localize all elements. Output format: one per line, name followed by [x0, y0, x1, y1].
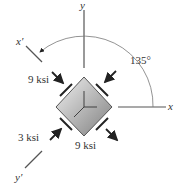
x-axis-label: x: [168, 101, 173, 112]
stress-label-bottom: 9 ksi: [75, 140, 96, 151]
x-prime-axis: [26, 46, 42, 62]
stress-element-diagram: [0, 0, 179, 189]
stress-label-top-left: 9 ksi: [28, 74, 49, 85]
stress-label-bottom-left: 3 ksi: [18, 132, 39, 143]
y-axis-label: y: [80, 0, 85, 11]
y-prime-axis: [25, 151, 42, 168]
y-prime-axis-label: y′: [15, 172, 22, 183]
angle-label: 135°: [130, 55, 151, 66]
x-prime-axis-label: x′: [16, 36, 23, 47]
